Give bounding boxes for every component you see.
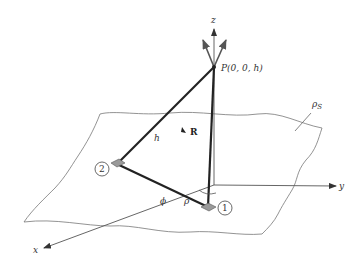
x-axis — [44, 185, 214, 248]
x-axis-label: x — [33, 245, 38, 255]
ground-surface — [24, 112, 322, 234]
antenna-1-number: 1 — [222, 203, 228, 213]
y-axis-label: y — [338, 181, 345, 191]
vector-r-arrow — [181, 127, 186, 133]
vector-r-label: R — [190, 127, 198, 137]
antenna-2-number: 2 — [99, 164, 105, 174]
radius-rho-label: ρ — [183, 196, 190, 206]
y-axis — [214, 185, 336, 186]
surface-density-label: ρS — [311, 99, 322, 111]
height-label: h — [154, 133, 160, 143]
surface-density-leader — [295, 113, 311, 131]
point-p — [212, 65, 216, 69]
geometry-diagram: y x z P(0, 0, h) h R ρS ϕ ρ 2 1 — [0, 0, 360, 274]
angle-phi-label: ϕ — [160, 196, 166, 206]
ray-to-antenna-2 — [117, 67, 214, 164]
z-axis-label: z — [210, 15, 216, 25]
point-p-label: P(0, 0, h) — [220, 63, 263, 73]
ray-arrow-left — [203, 40, 214, 67]
